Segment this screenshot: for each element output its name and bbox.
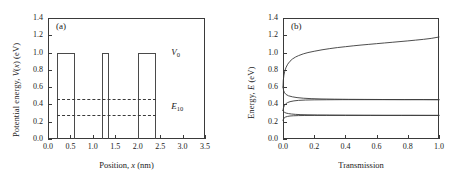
- transmission-curve: [283, 100, 439, 111]
- panel-a-x-tick: [183, 135, 184, 139]
- transmission-curve: [283, 87, 439, 100]
- potential-barrier: [138, 53, 156, 139]
- panel-a-y-tick-label: 0.4: [17, 99, 43, 108]
- panel-b-transmission-curves: [233, 0, 465, 179]
- panel-a-y-tick-label: 0.8: [17, 65, 43, 74]
- panel-a-y-tick: [48, 87, 52, 88]
- panel-a-x-tick: [93, 135, 94, 139]
- panel-a-y-tick-label: 0.0: [17, 134, 43, 143]
- figure-container: (a) Potential energy, V(x) (eV) Position…: [0, 0, 465, 179]
- panel-a-potential-energy: (a) Potential energy, V(x) (eV) Position…: [0, 0, 232, 179]
- panel-a-y-tick: [48, 139, 52, 140]
- panel-a-y-tick: [48, 104, 52, 105]
- transmission-curve: [283, 37, 439, 87]
- panel-a-x-tick-label: 3.5: [192, 142, 218, 151]
- panel-a-tag: (a): [56, 21, 66, 31]
- transmission-curve: [283, 115, 439, 120]
- panel-a-y-tick-label: 1.2: [17, 30, 43, 39]
- panel-a-y-tick: [48, 35, 52, 36]
- panel-a-y-tick-label: 0.6: [17, 82, 43, 91]
- panel-b-transmission: (b) Energy, E (eV) Transmission 0.00.20.…: [233, 0, 465, 179]
- panel-a-y-tick: [48, 70, 52, 71]
- energy-level-line: [57, 115, 156, 116]
- panel-a-y-tick-label: 0.2: [17, 117, 43, 126]
- panel-a-y-tick: [48, 53, 52, 54]
- transmission-curve: [283, 110, 439, 115]
- energy-level-line: [57, 99, 156, 100]
- potential-barrier: [57, 53, 75, 139]
- panel-a-x-axis-label: Position, x (nm): [48, 160, 205, 170]
- panel-a-x-tick: [205, 135, 206, 139]
- energy-level-annotation: E10: [171, 101, 183, 111]
- barrier-height-annotation: V0: [171, 47, 180, 57]
- panel-a-y-tick: [48, 122, 52, 123]
- panel-a-y-tick-label: 1.4: [17, 13, 43, 22]
- panel-a-y-tick: [48, 18, 52, 19]
- panel-a-x-tick: [115, 135, 116, 139]
- panel-a-x-tick: [160, 135, 161, 139]
- potential-barrier: [102, 53, 110, 139]
- panel-a-y-tick-label: 1.0: [17, 48, 43, 57]
